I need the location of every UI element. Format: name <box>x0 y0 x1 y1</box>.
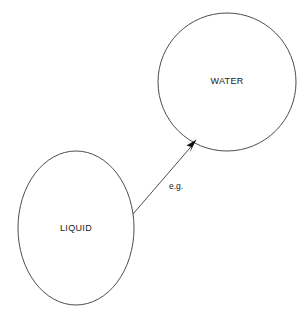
node-water[interactable]: WATER <box>158 13 296 151</box>
liquid-node-label: LIQUID <box>60 223 92 233</box>
diagram-svg: WATER LIQUID e.g. <box>0 0 307 322</box>
diagram-canvas: WATER LIQUID e.g. <box>0 0 307 322</box>
edge-label-eg: e.g. <box>169 181 183 191</box>
edge-liquid-to-water[interactable]: e.g. <box>133 140 197 215</box>
edge-connector-line <box>133 145 193 214</box>
node-liquid[interactable]: LIQUID <box>18 151 134 305</box>
water-node-label: WATER <box>210 76 243 86</box>
